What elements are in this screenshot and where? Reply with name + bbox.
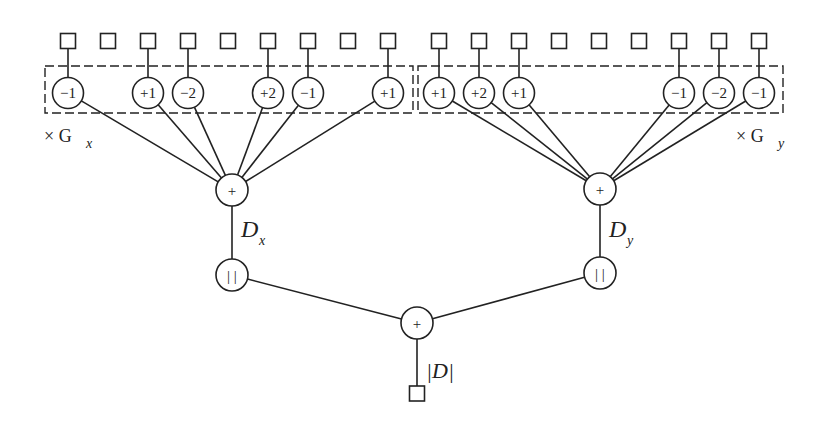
label-gx: × G x xyxy=(44,126,93,151)
weight-label: +2 xyxy=(260,85,276,101)
right-input-pixel xyxy=(752,34,767,49)
output-pixel xyxy=(410,386,425,401)
right-input-pixel xyxy=(552,34,567,49)
right-weight-node: +1 xyxy=(424,78,455,109)
plus-icon: + xyxy=(596,182,604,198)
label-magnitude: |D| xyxy=(426,358,454,383)
abs-icon: | | xyxy=(227,268,237,284)
weight-label: +1 xyxy=(511,85,527,101)
label-dy-sub: y xyxy=(625,233,634,248)
left-weight-node: +1 xyxy=(373,78,404,109)
combine-sum-node: + xyxy=(401,307,433,339)
label-dy-main: D xyxy=(608,216,626,242)
weight-label: +2 xyxy=(471,85,487,101)
weight-label: −2 xyxy=(180,85,196,101)
right-weight-node: +2 xyxy=(464,78,495,109)
weight-label: −1 xyxy=(60,85,76,101)
right-weight-node: +1 xyxy=(504,78,535,109)
left-input-pixel xyxy=(181,34,196,49)
weight-label: +1 xyxy=(140,85,156,101)
weight-label: +1 xyxy=(380,85,396,101)
left-input-pixel xyxy=(261,34,276,49)
left-abs-node: | | xyxy=(216,259,248,291)
right-input-pixel xyxy=(432,34,447,49)
right-weight-node: −1 xyxy=(664,78,695,109)
left-input-pixel xyxy=(301,34,316,49)
right-input-pixel xyxy=(472,34,487,49)
weight-label: −1 xyxy=(300,85,316,101)
left-weight-node: +1 xyxy=(133,78,164,109)
plus-icon: + xyxy=(413,316,421,332)
label-gy: × G y xyxy=(736,126,785,151)
left-input-pixel xyxy=(61,34,76,49)
left-input-pixel xyxy=(101,34,116,49)
left-input-pixel xyxy=(341,34,356,49)
label-dx-main: D xyxy=(240,216,258,242)
left-sum-node: + xyxy=(216,174,248,206)
right-input-pixel xyxy=(672,34,687,49)
right-weight-node: −1 xyxy=(744,78,775,109)
sobel-gradient-diagram: −1+1−2+2−1+1+| |+1+2+1−1−2−1+| |+ × G x … xyxy=(0,0,813,429)
left-weight-node: −2 xyxy=(173,78,204,109)
label-gy-sub: y xyxy=(776,136,785,151)
left-weight-node: +2 xyxy=(253,78,284,109)
label-dy: D y xyxy=(608,216,634,248)
right-input-pixel xyxy=(592,34,607,49)
label-gx-prefix: × G xyxy=(44,126,72,146)
weight-label: −2 xyxy=(711,85,727,101)
left-input-pixel xyxy=(141,34,156,49)
right-input-pixel xyxy=(512,34,527,49)
left-input-pixel xyxy=(381,34,396,49)
weight-label: −1 xyxy=(751,85,767,101)
label-dx: D x xyxy=(240,216,266,248)
right-weight-node: −2 xyxy=(704,78,735,109)
right-input-pixel xyxy=(712,34,727,49)
right-input-pixel xyxy=(632,34,647,49)
right-sum-node: + xyxy=(584,173,616,205)
abs-icon: | | xyxy=(595,266,605,282)
left-input-pixel xyxy=(221,34,236,49)
left-weight-node: −1 xyxy=(53,78,84,109)
right-abs-node: | | xyxy=(584,257,616,289)
plus-icon: + xyxy=(228,183,236,199)
label-gx-sub: x xyxy=(85,136,93,151)
label-dx-sub: x xyxy=(258,233,266,248)
weight-label: −1 xyxy=(671,85,687,101)
weight-label: +1 xyxy=(431,85,447,101)
label-gy-prefix: × G xyxy=(736,126,764,146)
left-kernel-box xyxy=(45,66,413,113)
left-weight-node: −1 xyxy=(293,78,324,109)
